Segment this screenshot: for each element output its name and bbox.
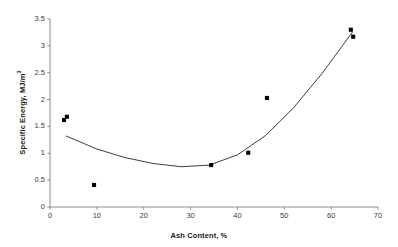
x-axis-title: Ash Content, % xyxy=(0,231,398,240)
data-point-marker xyxy=(265,96,269,100)
trendline-path xyxy=(66,32,352,166)
y-tick-label: 0.5 xyxy=(24,176,45,184)
y-tick-label: 0 xyxy=(24,203,45,211)
y-tick-label: 1.5 xyxy=(24,123,45,131)
x-tick-label: 40 xyxy=(233,212,241,220)
chart-container: 010203040506070 00.511.522.533.5 Ash Con… xyxy=(0,0,398,247)
data-point-marker xyxy=(92,183,96,187)
data-point-marker xyxy=(65,115,69,119)
x-tick-label: 20 xyxy=(140,212,148,220)
y-axis-title-text: Specific Energy, MJ/m xyxy=(18,73,27,154)
x-tick-label: 50 xyxy=(280,212,288,220)
x-tick-label: 0 xyxy=(48,212,52,220)
x-tick-label: 60 xyxy=(327,212,335,220)
axes xyxy=(47,19,378,210)
y-tick-label: 2 xyxy=(24,96,45,104)
data-point-marker xyxy=(349,28,353,32)
x-tick-label: 30 xyxy=(186,212,194,220)
y-axis-title: Specific Energy, MJ/m3 xyxy=(18,48,27,178)
trendline xyxy=(66,32,352,166)
chart-plot-area xyxy=(0,0,398,247)
y-tick-label: 2.5 xyxy=(24,69,45,77)
y-axis-title-superscript: 3 xyxy=(16,70,22,73)
data-points xyxy=(62,28,355,187)
x-tick-label: 70 xyxy=(374,212,382,220)
y-tick-label: 3 xyxy=(24,42,45,50)
data-point-marker xyxy=(246,151,250,155)
data-point-marker xyxy=(351,35,355,39)
y-tick-label: 3.5 xyxy=(24,15,45,23)
y-tick-label: 1 xyxy=(24,150,45,158)
data-point-marker xyxy=(209,163,213,167)
x-tick-label: 10 xyxy=(93,212,101,220)
